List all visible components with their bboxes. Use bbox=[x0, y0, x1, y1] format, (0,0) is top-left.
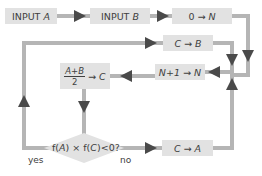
arrow-glyph: → bbox=[88, 71, 96, 82]
node-increment-n-right: N bbox=[194, 67, 201, 78]
arrow-glyph: → bbox=[183, 67, 191, 78]
node-c-to-a-left: C bbox=[174, 143, 181, 154]
node-input-b-prefix: INPUT bbox=[101, 11, 132, 22]
decision-var-c: C bbox=[90, 142, 97, 153]
node-midpoint-right: C bbox=[99, 71, 106, 82]
arrow-left-icon bbox=[208, 66, 220, 78]
arrow-left-icon bbox=[120, 70, 132, 82]
arrow-down-icon bbox=[242, 50, 254, 62]
node-input-b: INPUT B bbox=[90, 8, 150, 24]
connector-yes-loop bbox=[24, 43, 163, 148]
arrow-down-icon bbox=[226, 54, 238, 66]
arrow-glyph: → bbox=[197, 11, 205, 22]
flowchart-connectors bbox=[0, 0, 262, 176]
arrow-up-icon bbox=[226, 78, 238, 90]
node-increment-n: N+1 → N bbox=[155, 64, 205, 80]
node-input-b-var: B bbox=[132, 11, 139, 22]
node-c-to-b-left: C bbox=[174, 38, 181, 49]
node-init-n: 0 → N bbox=[172, 8, 232, 24]
decision-text-post: )<0? bbox=[97, 142, 120, 153]
node-increment-n-left: N+1 bbox=[159, 67, 180, 78]
midpoint-fraction: A+B 2 bbox=[64, 66, 85, 87]
node-input-a-var: A bbox=[43, 11, 50, 22]
branch-label-no: no bbox=[120, 155, 131, 165]
node-init-n-left: 0 bbox=[188, 11, 194, 22]
connector-initn-down bbox=[232, 16, 248, 75]
node-c-to-a: C → A bbox=[162, 140, 213, 156]
node-midpoint: A+B 2 → C bbox=[60, 63, 110, 89]
node-c-to-b: C → B bbox=[163, 35, 213, 51]
node-c-to-a-right: A bbox=[195, 143, 202, 154]
midpoint-numerator: A+B bbox=[64, 66, 85, 77]
connector-ca-up bbox=[213, 72, 232, 148]
node-c-to-b-right: B bbox=[195, 38, 202, 49]
node-input-a: INPUT A bbox=[5, 8, 57, 24]
arrow-glyph: → bbox=[184, 143, 192, 154]
decision-text-pre: f( bbox=[52, 142, 59, 153]
arrow-down-icon bbox=[78, 101, 90, 113]
node-input-a-prefix: INPUT bbox=[12, 11, 43, 22]
branch-label-yes: yes bbox=[28, 155, 44, 165]
arrow-right-icon bbox=[145, 37, 157, 49]
decision-text-mid: ) × f( bbox=[66, 142, 91, 153]
arrow-glyph: → bbox=[184, 38, 192, 49]
node-init-n-right: N bbox=[208, 11, 215, 22]
midpoint-denominator: 2 bbox=[72, 77, 77, 87]
arrow-right-icon bbox=[145, 142, 157, 154]
arrow-right-icon bbox=[74, 10, 86, 22]
arrow-up-icon bbox=[18, 95, 30, 107]
decision-text: f(A) × f(C)<0? bbox=[52, 142, 120, 153]
arrow-right-icon bbox=[157, 10, 169, 22]
